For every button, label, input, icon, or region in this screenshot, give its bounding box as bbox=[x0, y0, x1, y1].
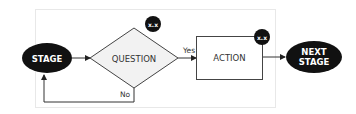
node-next-stage: NEXT STAGE bbox=[286, 41, 342, 73]
edge-no-label: No bbox=[120, 90, 131, 99]
edge-yes-label: Yes bbox=[182, 46, 195, 55]
next-stage-label-line1: NEXT bbox=[301, 47, 326, 57]
node-action: ACTION bbox=[197, 37, 263, 80]
flowchart-diagram: STAGE QUESTION x.x Yes No ACTION x.x NEX… bbox=[0, 0, 356, 114]
question-label: QUESTION bbox=[112, 54, 156, 64]
action-badge-label: x.x bbox=[257, 34, 267, 41]
next-stage-label-line2: STAGE bbox=[299, 57, 330, 67]
stage-label: STAGE bbox=[32, 54, 63, 64]
question-badge-label: x.x bbox=[148, 21, 158, 28]
node-stage: STAGE bbox=[22, 43, 72, 73]
question-badge: x.x bbox=[145, 16, 161, 32]
action-label: ACTION bbox=[213, 53, 245, 63]
action-badge: x.x bbox=[254, 29, 270, 45]
